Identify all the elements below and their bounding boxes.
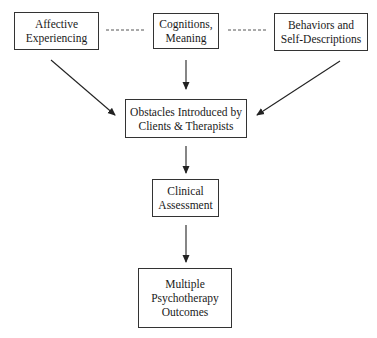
node-obstacles: Obstacles Introduced by Clients & Therap…: [125, 99, 247, 138]
node-label-line: Self-Descriptions: [281, 32, 361, 46]
node-behaviors-self-descriptions: Behaviors and Self-Descriptions: [274, 13, 368, 51]
node-clinical-assessment: Clinical Assessment: [152, 179, 219, 217]
node-label-line: Psychotherapy: [151, 291, 219, 305]
node-label-line: Behaviors and: [288, 18, 354, 32]
node-label-line: Multiple: [165, 277, 205, 291]
node-label-line: Affective: [35, 17, 78, 31]
node-label-line: Cognitions,: [159, 17, 212, 31]
arrow-behaviors-to-obstacles: [257, 61, 340, 115]
node-label-line: Clinical: [167, 184, 203, 198]
node-label-line: Obstacles Introduced by: [130, 105, 242, 119]
node-label-line: Experiencing: [26, 31, 87, 45]
node-multiple-outcomes: Multiple Psychotherapy Outcomes: [138, 268, 232, 328]
node-label-line: Clients & Therapists: [139, 119, 234, 133]
node-cognitions-meaning: Cognitions, Meaning: [153, 13, 219, 49]
node-affective-experiencing: Affective Experiencing: [14, 12, 99, 50]
node-label-line: Outcomes: [162, 305, 209, 319]
node-label-line: Assessment: [158, 198, 212, 212]
arrow-affective-to-obstacles: [51, 60, 115, 115]
node-label-line: Meaning: [166, 31, 207, 45]
